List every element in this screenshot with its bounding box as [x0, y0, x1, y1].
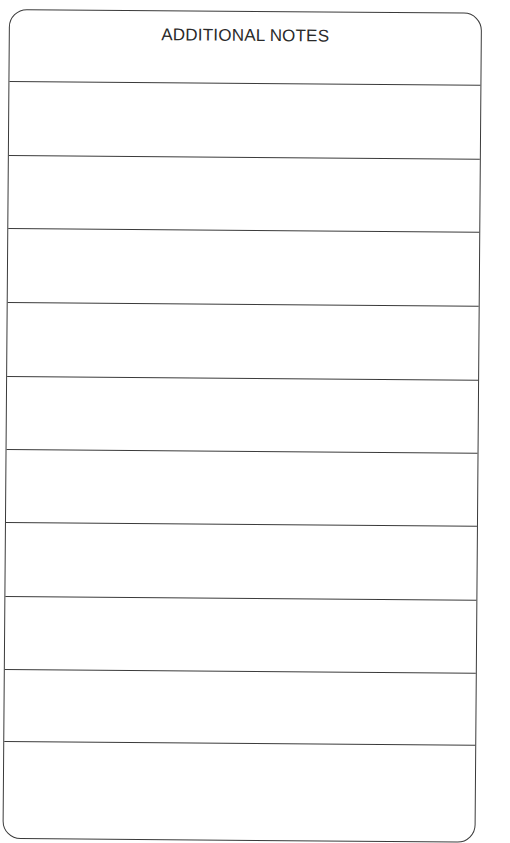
notes-card: ADDITIONAL NOTES — [2, 9, 482, 843]
note-line[interactable] — [7, 376, 478, 381]
notes-title: ADDITIONAL NOTES — [10, 24, 481, 48]
header-divider — [9, 81, 480, 86]
note-line[interactable] — [4, 741, 475, 746]
note-line[interactable] — [8, 302, 479, 307]
note-line[interactable] — [5, 669, 476, 674]
note-line[interactable] — [7, 449, 478, 454]
note-line[interactable] — [6, 522, 477, 527]
note-line[interactable] — [5, 596, 476, 601]
note-line[interactable] — [9, 155, 480, 160]
note-line[interactable] — [8, 228, 479, 233]
